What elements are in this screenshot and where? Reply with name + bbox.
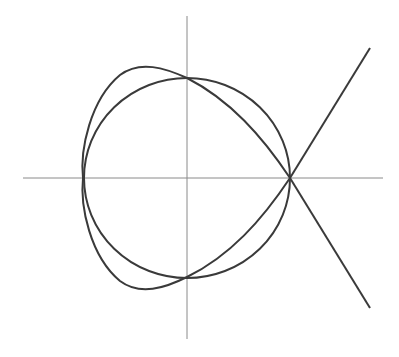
diagram-canvas <box>0 0 399 357</box>
strophoid-upper-branch <box>290 48 370 178</box>
curve-plot <box>0 0 399 357</box>
strophoid-lower-branch <box>290 178 370 308</box>
